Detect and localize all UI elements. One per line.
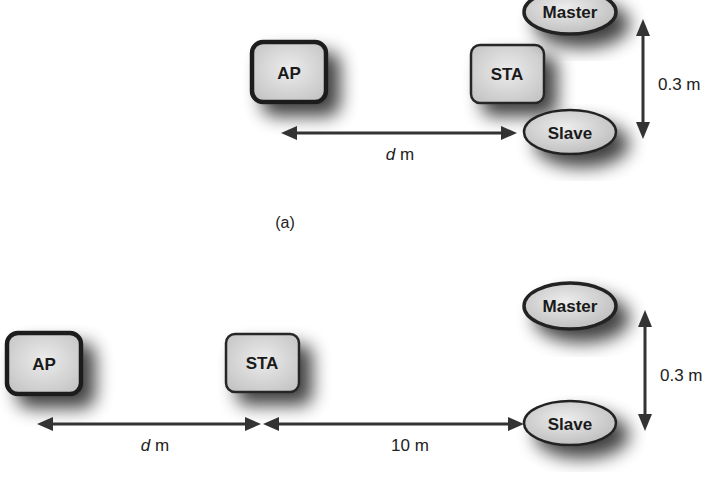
master-label: Master <box>543 3 598 22</box>
sta-label: STA <box>246 354 279 373</box>
separation-arrow <box>636 19 650 139</box>
distance-label-d: d m <box>386 145 414 164</box>
separation-label: 0.3 m <box>658 75 701 94</box>
separation-arrow <box>638 310 652 431</box>
panel-b: AP STA Master Slave d m 10 m <box>7 283 703 455</box>
ap-label: AP <box>32 355 56 374</box>
distance-label-d: d m <box>141 436 169 455</box>
master-label: Master <box>543 297 598 316</box>
distance-arrow-d <box>281 126 517 140</box>
distance-label-10m: 10 m <box>391 436 429 455</box>
distance-arrow-10m <box>263 417 524 431</box>
distance-arrow-d <box>37 417 261 431</box>
panel-a: AP STA Master Slave d m 0.3 m (a <box>252 0 701 231</box>
diagram-canvas: AP STA Master Slave d m 0.3 m (a <box>0 0 714 497</box>
sta-label: STA <box>491 65 524 84</box>
slave-label: Slave <box>548 124 592 143</box>
slave-label: Slave <box>548 415 592 434</box>
ap-label: AP <box>277 64 301 83</box>
separation-label: 0.3 m <box>660 366 703 385</box>
panel-caption-a: (a) <box>275 214 295 231</box>
